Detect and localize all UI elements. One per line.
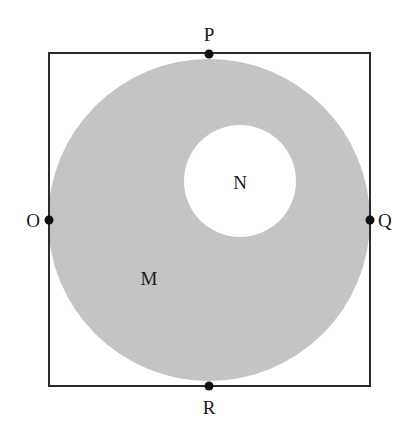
point-r: [205, 382, 214, 391]
point-o: [45, 216, 54, 225]
geometry-diagram: P Q R O M N: [0, 0, 413, 427]
label-q: Q: [378, 210, 392, 231]
label-p: P: [204, 24, 215, 45]
label-r: R: [203, 397, 216, 418]
point-p: [205, 50, 214, 59]
point-q: [366, 216, 375, 225]
label-m: M: [141, 268, 158, 289]
label-n: N: [233, 172, 247, 193]
label-o: O: [26, 210, 40, 231]
